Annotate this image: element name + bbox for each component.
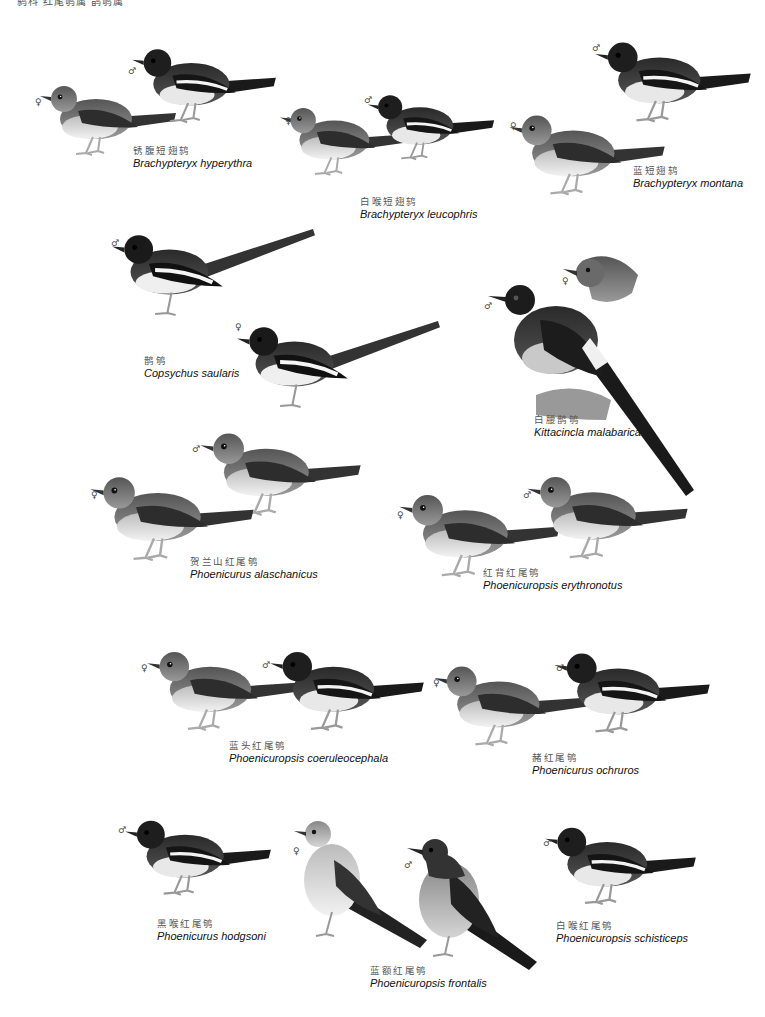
- chinese-name: 白腰鹊鸲: [534, 414, 641, 426]
- latin-name: Phoenicurus hodgsoni: [157, 930, 266, 942]
- latin-name: Copsychus saularis: [144, 367, 239, 379]
- chinese-name: 鹊鸲: [144, 355, 239, 367]
- male-symbol: ♂: [404, 860, 412, 870]
- latin-name: Phoenicurus alaschanicus: [190, 568, 318, 580]
- female-symbol: ♀: [285, 116, 292, 126]
- latin-name: Phoenicurus ochruros: [532, 764, 639, 776]
- female-symbol: ♀: [235, 322, 242, 332]
- species-label-phoenicurus-hodgsoni: 黑喉红尾鸲 Phoenicurus hodgsoni: [157, 918, 266, 942]
- chinese-name: 红背红尾鸲: [483, 567, 622, 579]
- bird-illustration-phoenicurus-ochruros-male: [552, 634, 712, 744]
- male-symbol: ♂: [128, 66, 136, 76]
- male-symbol: ♂: [556, 663, 564, 673]
- species-label-brachypteryx-leucophris: 白喉短翅鸫 Brachypteryx leucophris: [360, 196, 477, 220]
- latin-name: Phoenicuropsis erythronotus: [483, 579, 622, 591]
- bird-illustration-phoenicuropsis-erythronotus-male: [525, 466, 690, 561]
- chinese-name: 赭红尾鸲: [532, 752, 639, 764]
- bird-illustration-phoenicuropsis-frontalis-male: [405, 836, 545, 971]
- chinese-name: 蓝短翅鸫: [633, 165, 743, 177]
- male-symbol: ♂: [111, 238, 119, 248]
- male-symbol: ♂: [118, 825, 126, 835]
- chinese-name: 白喉红尾鸲: [556, 920, 688, 932]
- species-label-brachypteryx-hyperythra: 锈腹短翅鸫 Brachypteryx hyperythra: [133, 145, 252, 169]
- chinese-name: 锈腹短翅鸫: [133, 145, 252, 157]
- page-header: 鸫科 红尾鸲属 鹊鸲属: [17, 0, 124, 6]
- bird-illustration-brachypteryx-hyperythra-male: [130, 36, 278, 128]
- male-symbol: ♂: [192, 444, 200, 454]
- bird-illustration-copsychus-saularis-female: [235, 302, 440, 424]
- species-label-phoenicuropsis-coeruleocephala: 蓝头红尾鸲 Phoenicuropsis coeruleocephala: [229, 740, 388, 764]
- female-symbol: ♀: [562, 276, 569, 286]
- latin-name: Kittacincla malabarica: [534, 426, 641, 438]
- latin-name: Phoenicuropsis frontalis: [370, 977, 487, 989]
- female-symbol: ♀: [141, 663, 148, 673]
- bird-illustration-phoenicuropsis-coeruleocephala-male: [268, 634, 426, 740]
- female-symbol: ♀: [91, 490, 98, 500]
- latin-name: Brachypteryx leucophris: [360, 208, 477, 220]
- female-symbol: ♀: [433, 678, 440, 688]
- bird-illustration-phoenicuropsis-schisticeps-male: [543, 812, 698, 912]
- chinese-name: 白喉短翅鸫: [360, 196, 477, 208]
- latin-name: Brachypteryx hyperythra: [133, 157, 252, 169]
- chinese-name: 黑喉红尾鸲: [157, 918, 266, 930]
- species-label-phoenicurus-ochruros: 赭红尾鸲 Phoenicurus ochruros: [532, 752, 639, 776]
- male-symbol: ♂: [543, 838, 551, 848]
- female-symbol: ♀: [510, 121, 517, 131]
- species-label-phoenicuropsis-schisticeps: 白喉红尾鸲 Phoenicuropsis schisticeps: [556, 920, 688, 944]
- species-label-kittacincla-malabarica: 白腰鹊鸲 Kittacincla malabarica: [534, 414, 641, 438]
- female-symbol: ♀: [35, 97, 42, 107]
- bird-illustration-brachypteryx-montana-female: [507, 92, 667, 210]
- species-label-phoenicurus-alaschanicus: 贺兰山红尾鸲 Phoenicurus alaschanicus: [190, 556, 318, 580]
- bird-illustration-kittacincla-malabarica-female-head: [562, 251, 652, 311]
- chinese-name: 贺兰山红尾鸲: [190, 556, 318, 568]
- chinese-name: 蓝头红尾鸲: [229, 740, 388, 752]
- bird-illustration-phoenicurus-alaschanicus-female: [88, 462, 256, 567]
- male-symbol: ♂: [484, 301, 492, 311]
- chinese-name: 蓝额红尾鸲: [370, 965, 487, 977]
- bird-illustration-brachypteryx-leucophris-male: [366, 72, 496, 176]
- bird-illustration-phoenicurus-hodgsoni-male: [123, 800, 273, 908]
- species-label-brachypteryx-montana: 蓝短翅鸫 Brachypteryx montana: [633, 165, 743, 189]
- latin-name: Brachypteryx montana: [633, 177, 743, 189]
- latin-name: Phoenicuropsis schisticeps: [556, 932, 688, 944]
- latin-name: Phoenicuropsis coeruleocephala: [229, 752, 388, 764]
- species-label-phoenicuropsis-erythronotus: 红背红尾鸲 Phoenicuropsis erythronotus: [483, 567, 622, 591]
- male-symbol: ♂: [364, 95, 372, 105]
- male-symbol: ♂: [592, 43, 600, 53]
- species-label-phoenicuropsis-frontalis: 蓝额红尾鸲 Phoenicuropsis frontalis: [370, 965, 487, 989]
- male-symbol: ♂: [262, 660, 270, 670]
- male-symbol: ♂: [523, 490, 531, 500]
- female-symbol: ♀: [293, 846, 300, 856]
- female-symbol: ♀: [397, 510, 404, 520]
- species-label-copsychus-saularis: 鹊鸲 Copsychus saularis: [144, 355, 239, 379]
